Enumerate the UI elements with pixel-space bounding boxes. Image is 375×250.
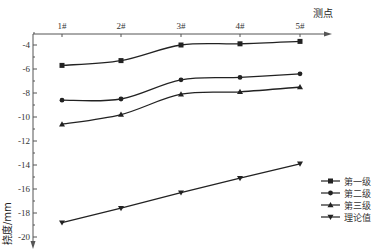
y-tick-label: -8	[23, 88, 31, 98]
y-axis-title: 挠度/mm	[1, 202, 13, 245]
legend: 第一级第二级第三级理论值	[321, 176, 371, 223]
legend-item: 第二级	[321, 188, 371, 199]
line-chart: 1#2#3#4#5#-4-6-8-10-12-14-16-18-20 第一级第二…	[0, 0, 375, 250]
x-tick-label: 5#	[296, 21, 306, 31]
x-axis-title: 测点	[313, 7, 333, 19]
legend-label: 第二级	[344, 188, 371, 199]
legend-label: 第三级	[344, 200, 371, 211]
series-4	[59, 162, 303, 226]
legend-label: 理论值	[344, 212, 371, 223]
y-tick-label: -18	[18, 208, 30, 218]
legend-item: 第一级	[321, 176, 371, 187]
x-tick-label: 4#	[236, 21, 246, 31]
x-tick-label: 1#	[58, 21, 68, 31]
y-tick-label: -16	[18, 184, 30, 194]
series-3	[59, 84, 303, 126]
legend-label: 第一级	[344, 176, 371, 187]
series-2	[60, 71, 303, 102]
y-tick-label: -4	[23, 40, 31, 50]
y-tick-label: -6	[23, 64, 31, 74]
series-layer	[59, 39, 303, 226]
y-tick-label: -10	[18, 112, 30, 122]
series-1	[60, 39, 303, 68]
legend-item: 第三级	[321, 200, 371, 211]
y-tick-label: -20	[18, 232, 30, 242]
y-tick-label: -14	[18, 160, 30, 170]
legend-item: 理论值	[321, 212, 371, 223]
y-tick-label: -12	[18, 136, 30, 146]
axes: 1#2#3#4#5#-4-6-8-10-12-14-16-18-20	[18, 21, 332, 249]
x-tick-label: 2#	[117, 21, 127, 31]
x-tick-label: 3#	[177, 21, 187, 31]
